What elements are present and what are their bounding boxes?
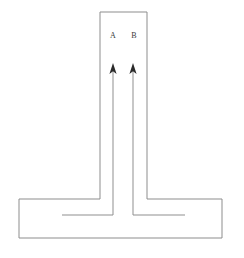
label-channel-b: B [131,31,136,40]
duct-flow-diagram: A B [0,0,244,258]
flow-line-a [62,70,113,215]
figure-canvas: A B [0,0,244,258]
label-channel-a: A [110,31,116,40]
duct-outline-path [19,12,222,238]
flow-line-b [133,70,185,215]
